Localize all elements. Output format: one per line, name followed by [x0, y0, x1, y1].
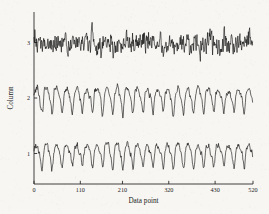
x-tick-label: 430 — [210, 186, 219, 193]
y-tick-label: 2 — [27, 94, 30, 101]
x-tick-label: 320 — [164, 186, 173, 193]
x-axis-tick-labels: 0110210320430520 — [32, 186, 257, 193]
trace-column-1 — [34, 141, 253, 171]
y-axis-title: Column — [7, 86, 15, 110]
y-axis-ticks — [34, 43, 37, 154]
y-axis-tick-labels: 123 — [27, 39, 30, 157]
x-tick-label: 110 — [76, 186, 85, 193]
y-tick-label: 3 — [27, 39, 30, 46]
trace-column-2 — [34, 84, 253, 118]
trace-column-3 — [34, 22, 253, 61]
line-chart: 0110210320430520 123 Data point Column — [0, 0, 269, 214]
figure-container: 0110210320430520 123 Data point Column — [0, 0, 269, 214]
x-tick-label: 520 — [248, 186, 257, 193]
data-traces — [34, 22, 253, 171]
x-axis-title: Data point — [128, 197, 158, 205]
x-tick-label: 0 — [32, 186, 35, 193]
y-tick-label: 1 — [27, 150, 30, 157]
x-axis-ticks — [34, 181, 253, 184]
x-tick-label: 210 — [118, 186, 127, 193]
